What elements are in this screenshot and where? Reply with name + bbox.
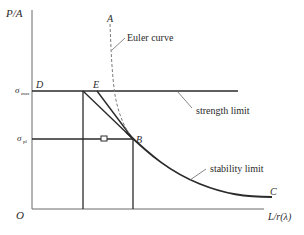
point-b-label: B [136, 134, 142, 145]
stability-limit-label: stability limit [210, 163, 264, 174]
square-marker [101, 136, 107, 141]
point-e-label: E [92, 79, 99, 90]
sigma-pl-symbol: σ [17, 133, 22, 143]
origin-label: O [16, 209, 24, 221]
sigma-max-subscript: max [21, 91, 30, 96]
euler-leader [112, 38, 125, 50]
point-c-label: C [270, 186, 277, 197]
x-axis-label: L/r(λ) [267, 211, 292, 223]
strength-limit-label: strength limit [196, 105, 250, 116]
y-axis-label: P/A [5, 7, 23, 19]
stability-leader [190, 169, 206, 180]
transition-line-1 [83, 91, 133, 139]
euler-curve-label: Euler curve [127, 32, 174, 43]
buckling-diagram: P/A L/r(λ) O σ max σ pl A B C D E Euler … [0, 0, 304, 235]
strength-leader [177, 91, 192, 108]
point-a-label: A [106, 13, 114, 24]
sigma-pl-subscript: pl [23, 139, 28, 144]
point-d-label: D [35, 79, 44, 90]
sigma-max-symbol: σ [15, 85, 20, 95]
